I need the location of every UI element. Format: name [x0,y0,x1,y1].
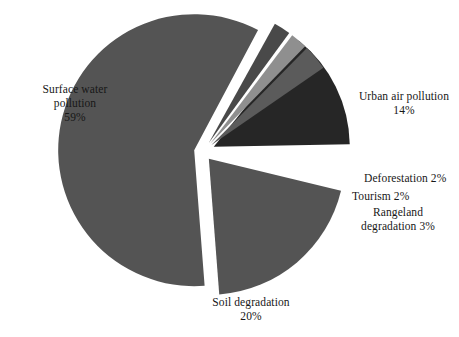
label-value: 59% [10,110,140,124]
pie-label-urban-air-pollution: Urban air pollution14% [348,89,459,117]
label-value: pollution [10,96,140,110]
pie-label-tourism: Tourism 2% [352,189,442,203]
pie-label-surface-water-pollution: Surface waterpollution59% [10,82,140,124]
pie-label-soil-degradation: Soil degradation20% [193,295,309,323]
label-text: Urban air pollution [348,89,459,103]
label-value: 14% [348,103,459,117]
label-text: Soil degradation [193,295,309,309]
label-text: Deforestation 2% [364,172,446,184]
pie-label-rangeland-degradation: Rangelanddegradation 3% [340,205,456,233]
label-text: Tourism 2% [352,190,409,202]
label-text: Rangeland [340,205,456,219]
pie-chart: Surface waterpollution59%Urban air pollu… [0,0,459,337]
label-text: Surface water [10,82,140,96]
label-value: degradation 3% [340,219,456,233]
label-value: 20% [193,309,309,323]
pie-chart-canvas [0,0,459,337]
pie-label-deforestation: Deforestation 2% [364,171,459,185]
pie-slice-soil-degradation[interactable] [209,159,341,295]
